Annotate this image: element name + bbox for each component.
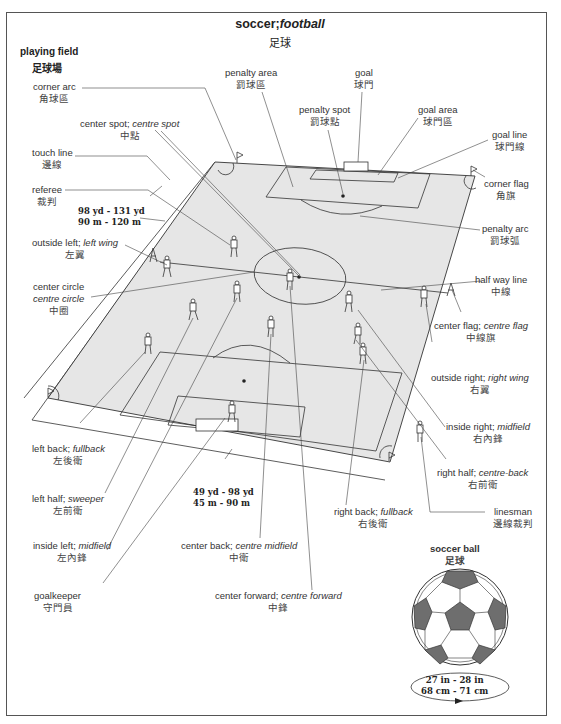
label-center-circle: center circle centre circle 中圈 <box>33 281 84 317</box>
ball-circumference: 27 in - 28 in 68 cm - 71 cm <box>421 675 488 697</box>
label-goal-area: goal area 球門區 <box>418 104 458 128</box>
playing-field-heading: playing field <box>20 46 78 57</box>
playing-field-heading-zh: 足球場 <box>20 60 78 75</box>
label-right-half: right half; centre-back 右前衛 <box>437 467 528 491</box>
label-center-forward: center forward; centre forward 中鋒 <box>215 590 342 614</box>
label-penalty-spot: penalty spot 罰球點 <box>299 104 350 128</box>
label-right-back: right back; fullback 右後衛 <box>334 506 413 530</box>
measure-width: 49 yd - 98 yd 45 m - 90 m <box>193 487 254 509</box>
penalty-spot-top <box>341 194 345 198</box>
title-en-italic: football <box>280 17 325 31</box>
label-inside-left: inside left; midfield 左內鋒 <box>33 540 111 564</box>
label-touch-line: touch line 邊線 <box>32 147 73 171</box>
label-referee: referee 裁判 <box>32 184 62 208</box>
label-inside-right: inside right; midfield 右內鋒 <box>446 421 530 445</box>
goal-top <box>344 162 368 171</box>
label-center-flag: center flag; centre flag 中線旗 <box>434 320 528 344</box>
title-zh: 足球 <box>180 34 380 50</box>
label-goal: goal 球門 <box>354 67 374 91</box>
label-penalty-arc: penalty arc 罰球弧 <box>482 223 528 247</box>
label-corner-flag: corner flag 角旗 <box>484 178 529 202</box>
soccer-ball-heading: soccer ball 足球 <box>430 543 480 567</box>
corner-flag-tl-icon <box>237 152 243 163</box>
label-outside-left: outside left; left wing 左翼 <box>32 237 118 261</box>
section-playing-field: playing field 足球場 <box>20 46 78 75</box>
corner-flag-tr-icon <box>471 166 477 176</box>
label-linesman: linesman 邊線裁判 <box>493 506 533 530</box>
label-goal-line: goal line 球門線 <box>492 129 527 153</box>
soccer-ball-icon <box>412 569 508 665</box>
soccer-field-illustration <box>0 0 561 724</box>
measure-length: 98 yd - 131 yd 90 m - 120 m <box>78 206 145 228</box>
penalty-spot-bottom <box>242 379 246 383</box>
label-left-half: left half; sweeper 左前衛 <box>32 493 104 517</box>
label-half-way-line: half way line 中線 <box>475 274 527 298</box>
label-outside-right: outside right; right wing 右翼 <box>431 372 529 396</box>
label-goalkeeper: goalkeeper 守門員 <box>34 590 81 614</box>
label-center-spot: center spot; centre spot 中點 <box>80 118 179 142</box>
circumference-arrow-icon <box>455 698 463 704</box>
label-corner-arc: corner arc 角球區 <box>33 81 76 105</box>
label-penalty-area: penalty area 罰球區 <box>225 67 277 91</box>
label-left-back: left back; fullback 左後衛 <box>32 443 105 467</box>
page-title: soccer;football 足球 <box>180 14 380 50</box>
title-en: soccer; <box>235 17 279 31</box>
label-center-back: center back; centre midfield 中衛 <box>181 540 297 564</box>
